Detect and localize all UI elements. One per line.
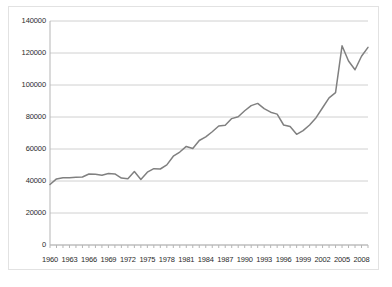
x-axis-tick-label: 1978 bbox=[159, 255, 175, 264]
x-axis-tick-label: 1969 bbox=[100, 255, 116, 264]
x-axis-tick-label: 1999 bbox=[295, 255, 311, 264]
gridlines bbox=[50, 21, 368, 245]
x-axis-tick-label: 2005 bbox=[334, 255, 350, 264]
plot-area bbox=[0, 0, 392, 287]
x-axis-tick-label: 1996 bbox=[276, 255, 292, 264]
y-axis-tick-label: 140000 bbox=[2, 16, 46, 25]
x-axis-tick-label: 2002 bbox=[315, 255, 331, 264]
x-axis-tick-label: 1960 bbox=[42, 255, 58, 264]
x-axis-tick-label: 1987 bbox=[217, 255, 233, 264]
y-axis-tick-label: 80000 bbox=[2, 112, 46, 121]
y-axis-tick-label: 60000 bbox=[2, 144, 46, 153]
y-axis-tick-label: 40000 bbox=[2, 176, 46, 185]
x-axis-tick-label: 1975 bbox=[139, 255, 155, 264]
y-axis-tick-label: 100000 bbox=[2, 80, 46, 89]
x-axis-tick-label: 1993 bbox=[256, 255, 272, 264]
data-series-line bbox=[50, 46, 368, 185]
y-axis-tick-label: 120000 bbox=[2, 48, 46, 57]
x-axis-tick-label: 1963 bbox=[62, 255, 78, 264]
line-chart-figure: 020000400006000080000100000120000140000 … bbox=[0, 0, 392, 287]
x-axis-tick-label: 1972 bbox=[120, 255, 136, 264]
x-axis-tick-label: 1984 bbox=[198, 255, 214, 264]
x-axis-tick-label: 1966 bbox=[81, 255, 97, 264]
x-axis-tick-label: 1990 bbox=[237, 255, 253, 264]
y-axis-tick-label: 0 bbox=[2, 240, 46, 249]
x-axis-tick-label: 2008 bbox=[354, 255, 370, 264]
x-axis-tick-label: 1981 bbox=[178, 255, 194, 264]
y-axis-tick-label: 20000 bbox=[2, 208, 46, 217]
